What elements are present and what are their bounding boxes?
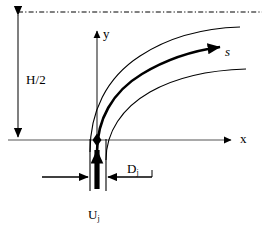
jet-diameter-subscript: j	[137, 168, 139, 177]
half-height-label: H/2	[26, 73, 46, 86]
diagram-canvas	[0, 0, 264, 236]
jet-centerline-trajectory	[97, 47, 220, 152]
jet-diameter-symbol: D	[127, 161, 136, 176]
jet-diameter-label: Dj	[127, 162, 139, 175]
jet-velocity-symbol: U	[88, 207, 97, 222]
origin-diamond-marker	[93, 134, 102, 147]
jet-velocity-subscript: j	[98, 214, 100, 223]
trajectory-coordinate-label: s	[225, 45, 230, 58]
jet-velocity-label: Uj	[88, 208, 100, 221]
jet-upper-boundary	[90, 27, 240, 152]
y-axis-label: y	[103, 27, 110, 40]
jet-in-crossflow-diagram: H/2 Uj Dj x y s	[0, 0, 264, 236]
x-axis-label: x	[240, 132, 247, 145]
jet-lower-boundary	[106, 69, 246, 160]
